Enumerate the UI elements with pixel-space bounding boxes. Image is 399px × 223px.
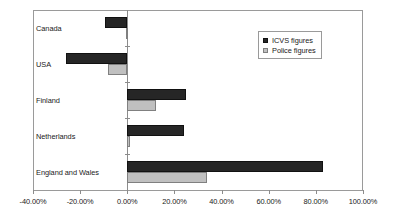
bar-usa-icvs [66, 53, 127, 64]
x-tick-mark [316, 190, 317, 194]
category-label-finland: Finland [36, 96, 60, 105]
x-tick-mark [80, 190, 81, 194]
x-tick-label: 60.00% [256, 197, 280, 206]
x-tick-mark [174, 190, 175, 194]
bar-canada-icvs [105, 17, 127, 28]
x-tick-mark [222, 190, 223, 194]
x-tick-label: 40.00% [209, 197, 233, 206]
category-label-usa: USA [36, 60, 51, 69]
category-label-netherlands: Netherlands [36, 132, 75, 141]
bar-netherlands-police [127, 136, 129, 147]
bar-chart: -40.00%-20.00%0.00%20.00%40.00%60.00%80.… [0, 0, 399, 223]
legend-label-icvs: ICVS figures [272, 36, 313, 45]
category-separator-tick [125, 154, 130, 155]
bar-england-and-wales-icvs [127, 161, 323, 172]
x-tick-label: 0.00% [117, 197, 137, 206]
legend-swatch-icon-icvs [263, 38, 268, 43]
x-tick-label: -20.00% [67, 197, 94, 206]
bar-england-and-wales-police [127, 172, 207, 183]
category-separator-tick [125, 118, 130, 119]
category-label-canada: Canada [36, 24, 62, 33]
chart-legend: ICVS figures Police figures [258, 31, 322, 59]
bar-finland-police [127, 100, 155, 111]
bar-usa-police [108, 64, 127, 75]
legend-item-icvs: ICVS figures [263, 35, 316, 45]
legend-label-police: Police figures [272, 46, 316, 55]
x-tick-label: -40.00% [20, 197, 47, 206]
x-tick-label: 100.00% [349, 197, 377, 206]
category-separator-tick [125, 82, 130, 83]
category-separator-tick [125, 46, 130, 47]
x-tick-mark [269, 190, 270, 194]
x-tick-mark [127, 190, 128, 194]
category-label-england-and-wales: England and Wales [36, 168, 99, 177]
x-tick-label: 20.00% [162, 197, 186, 206]
legend-swatch-icon-police [263, 48, 268, 53]
bar-canada-police [126, 28, 128, 39]
x-tick-mark [363, 190, 364, 194]
x-tick-label: 80.00% [304, 197, 328, 206]
x-tick-mark [33, 190, 34, 194]
legend-item-police: Police figures [263, 45, 316, 55]
bar-finland-icvs [127, 89, 186, 100]
bar-netherlands-icvs [127, 125, 184, 136]
x-axis-line [33, 190, 364, 191]
